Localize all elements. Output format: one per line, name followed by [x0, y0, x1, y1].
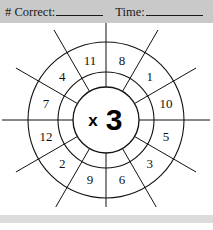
sector-number: 9 [87, 172, 94, 187]
header-row: # Correct: Time: [0, 0, 213, 23]
time-field-group: Time: [115, 3, 202, 20]
correct-input-rule[interactable] [56, 3, 103, 16]
sector-number: 8 [119, 53, 126, 68]
sector-number: 4 [59, 69, 66, 84]
sector-number: 6 [119, 172, 126, 187]
footer-band [0, 215, 213, 223]
correct-field-group: # Correct: [5, 3, 103, 20]
sector-number: 11 [84, 53, 97, 68]
correct-label: # Correct: [5, 5, 55, 20]
sector-number: 10 [159, 96, 172, 111]
time-label: Time: [115, 5, 144, 20]
sector-number: 3 [147, 156, 154, 171]
sector-number: 5 [163, 129, 170, 144]
sector-number: 1 [147, 69, 154, 84]
time-input-rule[interactable] [146, 3, 203, 16]
multiplication-wheel-graphic: x 3 811053692127411 [0, 23, 213, 207]
sector-number: 12 [40, 129, 53, 144]
sector-number: 7 [43, 96, 50, 111]
multiplication-wheel-worksheet: # Correct: Time: x 3 811053692127411 [0, 0, 213, 230]
wheel-area: x 3 811053692127411 [0, 23, 213, 207]
hub-operator-text: x [88, 111, 98, 130]
sector-number: 2 [59, 156, 66, 171]
hub-multiplier-text: 3 [106, 103, 123, 136]
